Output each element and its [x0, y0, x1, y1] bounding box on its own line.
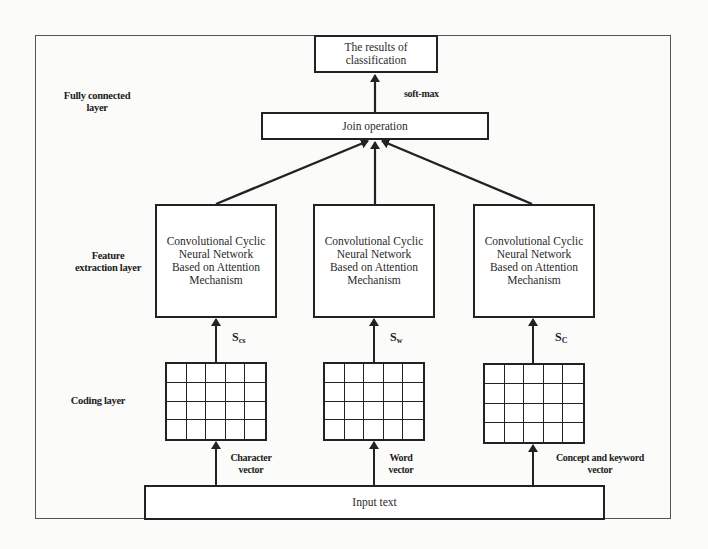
input-text-box: Input text [144, 485, 605, 520]
coding-grid-character [165, 362, 267, 441]
coding-grid-word [323, 362, 425, 441]
join-operation-box: Join operation [261, 112, 489, 140]
layer-label-fully-connected: Fully connected layer [52, 90, 142, 114]
cnn-box-concept: Convolutional Cyclic Neural Network Base… [473, 204, 595, 318]
cnn-box-character: Convolutional Cyclic Neural Network Base… [155, 204, 277, 318]
symbol-s-c: SC [555, 330, 567, 345]
vector-label-word: Word vector [384, 452, 418, 476]
vector-label-concept-keyword: Concept and keyword vector [542, 452, 658, 476]
symbol-s-cs: Scs [232, 330, 245, 345]
cnn-box-word: Convolutional Cyclic Neural Network Base… [313, 204, 435, 318]
symbol-s-w: Sw [390, 330, 402, 345]
coding-grid-concept [483, 363, 585, 444]
classification-results-box: The results of classification [314, 35, 438, 73]
layer-label-feature-extraction: Feature extraction layer [63, 250, 153, 274]
softmax-label: soft-max [404, 88, 439, 100]
vector-label-character: Character vector [226, 452, 276, 476]
layer-label-coding: Coding layer [58, 395, 138, 407]
